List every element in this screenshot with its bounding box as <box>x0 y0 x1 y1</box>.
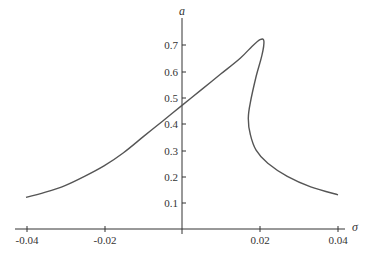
y-tick-label: 0.5 <box>164 92 178 104</box>
y-tick-label: 0.4 <box>164 118 178 130</box>
y-tick-label: 0.2 <box>164 171 178 183</box>
y-ticks <box>182 45 186 203</box>
y-tick-label: 0.3 <box>164 145 178 157</box>
chart: -0.04 -0.02 0.02 0.04 0.1 0.2 0.3 0.4 0.… <box>0 0 371 255</box>
y-tick-label: 0.1 <box>164 197 178 209</box>
x-tick-label: -0.04 <box>16 234 39 246</box>
y-tick-label: 0.7 <box>164 39 178 51</box>
y-axis-title: a <box>179 4 185 18</box>
x-tick-label: 0.02 <box>250 234 269 246</box>
x-axis-title: σ <box>352 220 359 234</box>
x-tick-label: 0.04 <box>328 234 348 246</box>
y-tick-label: 0.6 <box>164 66 178 78</box>
x-tick-label: -0.02 <box>94 234 117 246</box>
